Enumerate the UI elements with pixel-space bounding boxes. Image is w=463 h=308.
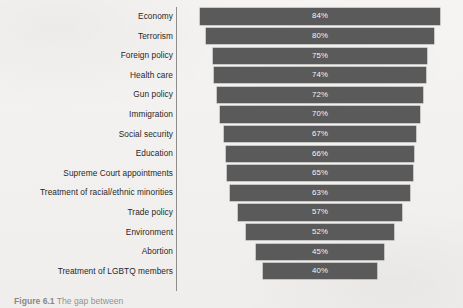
chart-row: Health care74% [0, 66, 463, 86]
category-label: Gun policy [133, 85, 173, 105]
bar-value-label: 74% [214, 67, 426, 83]
chart-row: Supreme Court appointments65% [0, 164, 463, 184]
bar[interactable]: 67% [224, 126, 416, 142]
bar-track: 67% [177, 125, 463, 145]
bar-track: 75% [177, 46, 463, 66]
bar-track: 72% [177, 85, 463, 105]
category-label: Immigration [129, 105, 173, 125]
bar-track: 40% [177, 262, 463, 282]
category-label: Supreme Court appointments [63, 164, 173, 184]
bar-track: 57% [177, 203, 463, 223]
figure-number: Figure 6.1 [14, 296, 55, 306]
category-label: Education [136, 144, 173, 164]
bar[interactable]: 70% [220, 106, 420, 122]
funnel-bar-chart: Economy84%Terrorism80%Foreign policy75%H… [0, 0, 463, 290]
bar-value-label: 67% [224, 126, 416, 142]
bar[interactable]: 52% [246, 224, 395, 240]
chart-row: Economy84% [0, 7, 463, 27]
bar[interactable]: 72% [217, 87, 423, 103]
bar-track: 63% [177, 183, 463, 203]
bar-track: 45% [177, 242, 463, 262]
figure-caption-text: The gap between [57, 296, 123, 306]
bar-track: 74% [177, 66, 463, 86]
bar-value-label: 84% [200, 8, 440, 24]
bar-value-label: 80% [206, 28, 435, 44]
chart-row: Abortion45% [0, 242, 463, 262]
category-label: Treatment of racial/ethnic minorities [40, 183, 173, 203]
chart-row: Social security67% [0, 125, 463, 145]
chart-row: Immigration70% [0, 105, 463, 125]
chart-row: Treatment of LGBTQ members40% [0, 262, 463, 282]
bar-value-label: 66% [226, 146, 415, 162]
chart-row: Education66% [0, 144, 463, 164]
bar-value-label: 72% [217, 87, 423, 103]
category-label: Environment [126, 223, 173, 243]
bar[interactable]: 40% [263, 263, 377, 279]
chart-row: Terrorism80% [0, 27, 463, 47]
bar-track: 84% [177, 7, 463, 27]
chart-row: Treatment of racial/ethnic minorities63% [0, 183, 463, 203]
bar-value-label: 65% [227, 165, 413, 181]
category-label: Treatment of LGBTQ members [58, 262, 173, 282]
bar-track: 70% [177, 105, 463, 125]
bar-track: 80% [177, 27, 463, 47]
category-label: Abortion [142, 242, 173, 262]
category-label: Health care [130, 66, 173, 86]
bar-value-label: 70% [220, 106, 420, 122]
category-label: Trade policy [128, 203, 173, 223]
category-label: Economy [138, 7, 173, 27]
category-label: Terrorism [138, 27, 173, 47]
bar-track: 52% [177, 223, 463, 243]
figure-caption: Figure 6.1 The gap between [14, 295, 454, 308]
bar[interactable]: 45% [256, 244, 385, 260]
bar-value-label: 40% [263, 263, 377, 279]
chart-rows: Economy84%Terrorism80%Foreign policy75%H… [0, 7, 463, 281]
bar-value-label: 52% [246, 224, 395, 240]
bar[interactable]: 75% [213, 48, 428, 64]
category-label: Social security [119, 125, 173, 145]
category-label: Foreign policy [121, 46, 173, 66]
bar[interactable]: 74% [214, 67, 426, 83]
bar[interactable]: 66% [226, 146, 415, 162]
chart-row: Environment52% [0, 223, 463, 243]
bar[interactable]: 63% [230, 185, 410, 201]
chart-row: Trade policy57% [0, 203, 463, 223]
bar-track: 66% [177, 144, 463, 164]
chart-row: Gun policy72% [0, 85, 463, 105]
bar[interactable]: 57% [238, 204, 401, 220]
bar-track: 65% [177, 164, 463, 184]
bar[interactable]: 80% [206, 28, 435, 44]
bar-value-label: 75% [213, 48, 428, 64]
bar[interactable]: 84% [200, 8, 440, 24]
bar[interactable]: 65% [227, 165, 413, 181]
bar-value-label: 63% [230, 185, 410, 201]
chart-row: Foreign policy75% [0, 46, 463, 66]
bar-value-label: 57% [238, 204, 401, 220]
bar-value-label: 45% [256, 244, 385, 260]
